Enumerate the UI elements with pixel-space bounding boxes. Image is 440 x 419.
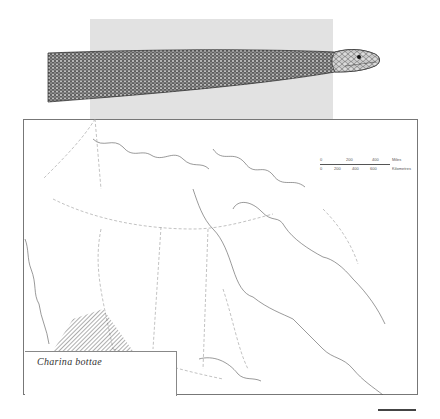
scale-km-tick: 600	[370, 166, 377, 171]
legend-box: Charina bottae	[25, 351, 177, 396]
scale-miles-unit: Miles	[392, 157, 401, 162]
scale-miles-tick: 200	[346, 157, 353, 162]
scale-km-tick: 200	[334, 166, 341, 171]
scale-km-tick: 400	[352, 166, 359, 171]
scale-km-tick: 0	[320, 166, 322, 171]
scale-miles-tick: 0	[320, 157, 322, 162]
species-label: Charina bottae	[37, 356, 102, 367]
scale-bar: 0 200 400 Miles 0 200 400 600 Kilometres	[320, 155, 415, 175]
page-rule	[378, 409, 416, 411]
scale-miles-tick: 400	[372, 157, 379, 162]
scale-km-unit: Kilometres	[392, 166, 411, 171]
snake-illustration	[45, 44, 385, 109]
scale-line	[320, 164, 390, 165]
